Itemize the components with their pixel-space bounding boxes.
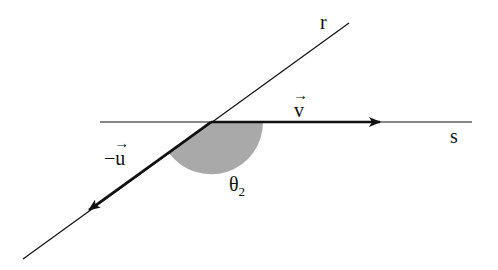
label-vector-minus-u: −→u	[104, 148, 125, 168]
diagram-svg	[0, 0, 498, 270]
vector-arrow-icon: →	[293, 88, 308, 103]
label-theta2: θ2	[229, 174, 245, 198]
label-vector-v: →v	[294, 100, 304, 120]
vector-arrow-icon: →	[114, 136, 129, 151]
angle-theta2-shade	[169, 122, 263, 174]
diagram-canvas: r s →v −→u θ2	[0, 0, 498, 270]
label-r: r	[320, 12, 327, 32]
label-s: s	[450, 126, 458, 146]
